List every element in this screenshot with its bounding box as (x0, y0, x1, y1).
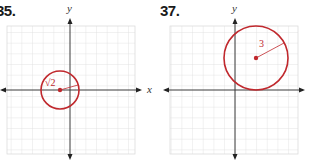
graph-35: x y √2 (0, 2, 152, 160)
graphs: x y √2 y 3 (0, 0, 309, 165)
x-axis-left-arrow-icon (0, 88, 6, 93)
x-axis-left-arrow-icon (163, 88, 169, 93)
radius-label-37: 3 (259, 38, 264, 49)
y-axis-label-37: y (231, 2, 237, 14)
y-axis-down-arrow-icon (68, 154, 73, 160)
x-axis-right-arrow-icon (299, 88, 305, 93)
graph-37: y 3 (163, 2, 305, 160)
x-axis-right-arrow-icon (136, 88, 142, 93)
x-axis-label-35: x (146, 83, 152, 95)
y-axis-down-arrow-icon (233, 154, 238, 160)
y-axis-up-arrow-icon (233, 18, 238, 24)
y-axis-up-arrow-icon (68, 18, 73, 24)
radius-label-35: √2 (45, 77, 56, 88)
y-axis-label-35: y (66, 2, 72, 14)
